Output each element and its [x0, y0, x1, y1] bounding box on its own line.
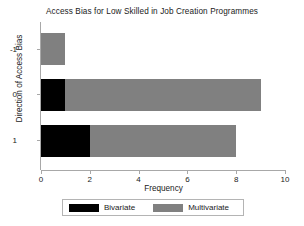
bar-segment-multivariate	[90, 125, 236, 157]
legend-label-multivariate: Multivariate	[188, 203, 229, 212]
x-tick-mark	[187, 171, 188, 174]
x-tick-label: 2	[80, 175, 100, 184]
chart-container: Access Bias for Low Skilled in Job Creat…	[0, 0, 304, 226]
y-tick-label: 1	[0, 136, 17, 145]
y-axis-label: Direction of Access Bias	[15, 4, 24, 154]
legend-swatch-bivariate	[69, 204, 99, 212]
bar-row	[41, 79, 261, 111]
bar-segment-bivariate	[41, 79, 65, 111]
bar-row	[41, 125, 236, 157]
legend-swatch-multivariate	[153, 204, 183, 212]
bar-row	[41, 33, 65, 65]
bar-segment-bivariate	[41, 125, 90, 157]
plot-area	[41, 22, 285, 170]
legend-entry-multivariate: Multivariate	[147, 200, 229, 215]
chart-legend: Bivariate Multivariate	[62, 199, 244, 216]
chart-title: Access Bias for Low Skilled in Job Creat…	[0, 7, 304, 16]
y-tick-label: 0	[0, 90, 17, 99]
bar-segment-multivariate	[65, 79, 260, 111]
x-tick-label: 0	[31, 175, 51, 184]
legend-label-bivariate: Bivariate	[104, 203, 135, 212]
x-tick-label: 8	[226, 175, 246, 184]
x-tick-label: 6	[177, 175, 197, 184]
x-tick-mark	[90, 171, 91, 174]
x-tick-mark	[41, 171, 42, 174]
y-tick-label: -1	[0, 45, 17, 54]
bar-segment-multivariate	[41, 33, 65, 65]
x-axis-label: Frequency	[41, 184, 286, 193]
x-tick-label: 10	[275, 175, 295, 184]
x-tick-mark	[285, 171, 286, 174]
legend-entry-bivariate: Bivariate	[63, 200, 135, 215]
x-tick-label: 4	[129, 175, 149, 184]
x-tick-mark	[236, 171, 237, 174]
x-tick-mark	[139, 171, 140, 174]
x-axis-line	[41, 170, 286, 171]
